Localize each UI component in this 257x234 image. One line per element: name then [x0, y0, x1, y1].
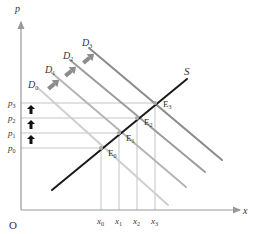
- quantity-label-x2: x2: [132, 216, 140, 227]
- price-guides: [21, 103, 155, 148]
- origin-label: O: [9, 219, 17, 231]
- price-label-p1: p1: [7, 128, 16, 139]
- equilibrium-label-e1: E1: [126, 133, 135, 144]
- price-increase-arrows: [27, 105, 35, 144]
- demand-label-d1: D1: [44, 64, 55, 76]
- supply-label: S: [184, 65, 190, 77]
- demand-label-d3: D3: [81, 37, 92, 49]
- equilibrium-point-e3: [153, 101, 157, 105]
- quantity-label-x1: x1: [114, 216, 122, 227]
- equilibrium-label-e2: E2: [144, 117, 153, 128]
- up-arrow-icon: [27, 135, 35, 144]
- price-label-p3: p3: [7, 98, 16, 109]
- y-axis-label: p: [14, 3, 20, 14]
- supply-demand-diagram: p x O S D0 D1 D2 D3 E0 E1 E2 E3 p0 p1 p2…: [0, 0, 257, 234]
- quantity-label-x3: x3: [150, 216, 158, 227]
- equilibrium-label-e3: E3: [163, 99, 172, 110]
- up-arrow-icon: [27, 120, 35, 129]
- up-arrow-icon: [27, 105, 35, 114]
- x-axis-label: x: [242, 205, 248, 216]
- equilibrium-point-e1: [117, 131, 121, 135]
- price-label-p2: p2: [7, 113, 16, 124]
- price-label-p0: p0: [7, 143, 16, 154]
- equilibrium-point-e2: [135, 116, 139, 120]
- equilibrium-label-e0: E0: [108, 148, 117, 159]
- quantity-label-x0: x0: [96, 216, 104, 227]
- demand-curve-d0: [38, 88, 168, 205]
- equilibrium-point-e0: [99, 146, 103, 150]
- demand-label-d2: D2: [62, 50, 73, 62]
- demand-label-d0: D0: [27, 79, 38, 91]
